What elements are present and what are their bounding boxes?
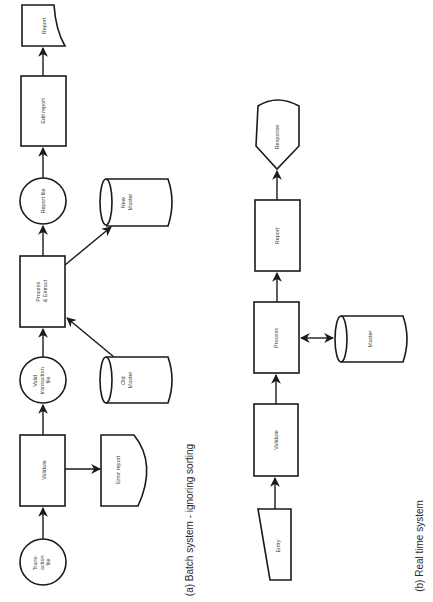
node-report-file: Report file — [20, 178, 66, 224]
node-report-a: Report — [22, 5, 65, 46]
node-label: Report — [274, 227, 280, 244]
node-label: Edit report — [40, 98, 46, 124]
edge-old-master-to-process-extract — [67, 318, 114, 357]
node-old-master: Old Master — [100, 357, 172, 403]
node-label: Response — [274, 125, 280, 150]
cylinder-body-shape — [106, 357, 172, 403]
node-process: Process — [254, 302, 299, 373]
node-label: Validate — [273, 430, 279, 449]
cylinder-cap-shape — [100, 179, 112, 225]
node-label: Process — [273, 328, 279, 348]
cylinder-body-shape — [106, 179, 172, 226]
caption-a: (a) Batch system - ignoring sorting — [184, 444, 195, 596]
node-label: Error report — [115, 455, 121, 484]
node-transaction-file: Trans- action file — [20, 539, 66, 585]
flowchart-canvas: Trans- action file Validate Error report… — [0, 0, 433, 602]
caption-b: (b) Real time system — [414, 500, 425, 592]
node-validate-b: Validate — [254, 404, 298, 476]
node-label: Report file — [40, 188, 46, 213]
edge-process-extract-to-new-master — [65, 227, 111, 265]
node-validate-a: Validate — [20, 435, 65, 506]
node-master: Master — [335, 316, 407, 362]
node-label: Validate — [41, 460, 47, 479]
node-valid-transaction-file: Valid transaction file — [20, 357, 66, 403]
diagram-b-real-time-system: Entry Validate Process Master Report Res… — [254, 100, 425, 592]
document-shape — [101, 435, 147, 506]
node-edit-report: Edit report — [21, 76, 66, 146]
node-response: Response — [256, 100, 299, 169]
node-error-report: Error report — [101, 435, 147, 506]
node-label: Master — [367, 330, 373, 347]
node-label: New Master — [120, 193, 133, 210]
cylinder-body-shape — [341, 316, 407, 362]
node-label: Report — [41, 17, 47, 34]
node-label: Process & Extract — [35, 279, 48, 302]
node-label: Entry — [275, 539, 281, 552]
diagram-a-batch-system: Trans- action file Validate Error report… — [20, 5, 195, 596]
node-report-b: Report — [255, 200, 300, 271]
node-entry: Entry — [258, 509, 291, 580]
cylinder-cap-shape — [100, 357, 112, 403]
node-new-master: New Master — [100, 179, 172, 226]
node-process-extract: Process & Extract — [20, 256, 65, 327]
cylinder-cap-shape — [335, 316, 347, 362]
